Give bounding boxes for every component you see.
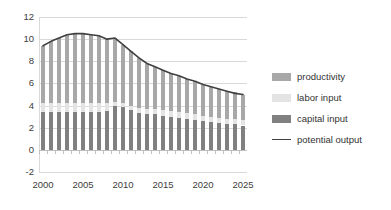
x-axis-tick-label: 2005	[72, 180, 93, 190]
legend-item-label: potential output	[297, 135, 362, 145]
legend-item[interactable]: labor input	[272, 87, 391, 108]
x-axis-tick-label: 2020	[192, 180, 213, 190]
gridline	[39, 172, 247, 173]
plot-area-wrapper: 121086420-2 200020052010201520202025	[0, 0, 262, 210]
potential-output-line	[39, 17, 247, 172]
y-axis-tick-label: 8	[29, 56, 34, 65]
x-axis-tick-label: 2025	[232, 180, 253, 190]
legend-item-label: capital input	[297, 114, 348, 124]
chart-container: 121086420-2 200020052010201520202025 pro…	[0, 0, 391, 210]
legend-item[interactable]: potential output	[272, 129, 391, 150]
legend-swatch-icon	[272, 94, 291, 102]
chart-legend: productivitylabor inputcapital inputpote…	[272, 66, 391, 150]
y-axis-tick-label: 2	[29, 123, 34, 132]
x-axis-tick-label: 2010	[112, 180, 133, 190]
legend-item[interactable]: productivity	[272, 66, 391, 87]
legend-line-marker-icon	[272, 139, 291, 140]
y-axis-tick-label: 6	[29, 78, 34, 87]
y-axis-tick-labels: 121086420-2	[0, 0, 34, 210]
legend-swatch-icon	[272, 115, 291, 123]
y-axis-tick-label: 0	[29, 145, 34, 154]
x-axis-tick-labels: 200020052010201520202025	[39, 180, 249, 194]
y-axis-tick-label: 12	[23, 12, 34, 21]
x-axis-tick-label: 2000	[32, 180, 53, 190]
legend-item-label: productivity	[297, 72, 345, 82]
x-axis-tick-label: 2015	[152, 180, 173, 190]
y-axis-tick-label: 4	[29, 101, 34, 110]
legend-swatch-icon	[272, 73, 291, 81]
legend-item-label: labor input	[297, 93, 341, 103]
line-path	[43, 34, 243, 95]
y-axis-tick-label: -2	[26, 167, 34, 176]
legend-item[interactable]: capital input	[272, 108, 391, 129]
y-axis-tick-label: 10	[23, 34, 34, 43]
